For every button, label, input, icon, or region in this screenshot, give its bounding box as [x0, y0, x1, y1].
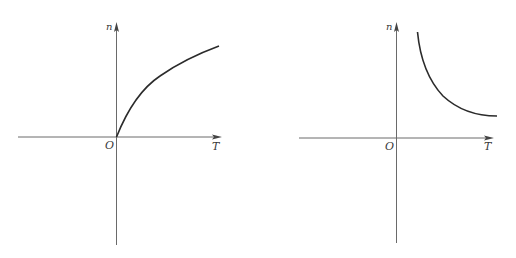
right-curve	[418, 32, 498, 116]
right-panel: n T O	[299, 21, 497, 243]
left-panel: n T O	[18, 21, 222, 245]
left-curve	[117, 46, 220, 137]
left-y-axis-label: n	[106, 21, 112, 32]
right-y-axis-label: n	[386, 21, 392, 32]
figure: n T O n T O	[0, 0, 516, 258]
right-x-axis-label: T	[484, 140, 493, 153]
left-x-axis-label: T	[212, 140, 221, 153]
right-origin-label: O	[385, 140, 394, 153]
left-origin-label: O	[105, 139, 114, 152]
